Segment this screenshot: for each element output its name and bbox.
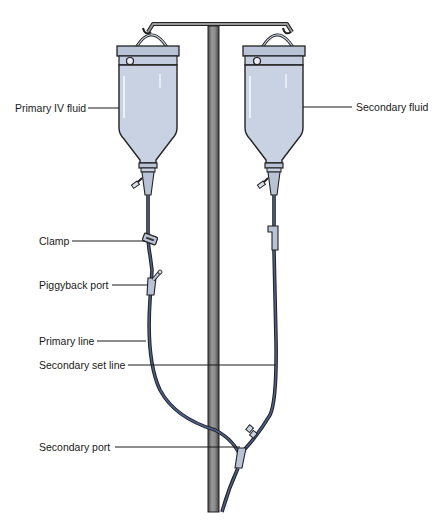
label-secondary-set-line: Secondary set line: [39, 359, 125, 371]
label-piggyback-port: Piggyback port: [39, 279, 108, 291]
label-primary-line: Primary line: [39, 335, 94, 347]
pole-crossbar: [148, 24, 292, 32]
label-primary-iv-fluid: Primary IV fluid: [15, 102, 86, 114]
luer-connector: [246, 425, 257, 438]
secondary-set-tubing: [222, 195, 278, 512]
piggyback-port: [147, 270, 162, 295]
secondary-bottle: [243, 35, 305, 195]
roller-clamp: [142, 233, 158, 245]
label-clamp: Clamp: [39, 235, 69, 247]
primary-line-tubing: [142, 195, 242, 460]
label-secondary-port: Secondary port: [39, 441, 110, 453]
primary-iv-bottle: [117, 35, 179, 195]
secondary-clamp: [268, 226, 278, 250]
label-secondary-fluid: Secondary fluid: [356, 101, 428, 113]
